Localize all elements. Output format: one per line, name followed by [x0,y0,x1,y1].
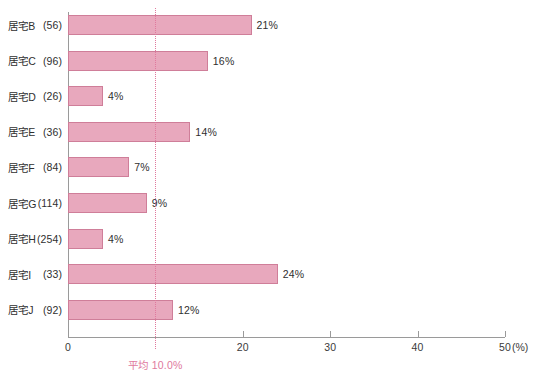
x-tick-mark [505,331,506,337]
bar-value-label: 9% [152,192,168,214]
bar-value-label: 4% [108,228,124,250]
bar-row: 居宅B(56)21% [0,14,543,36]
category-label: 居宅F(84) [8,156,62,178]
category-label: 居宅C(96) [8,50,62,72]
category-count: (26) [43,90,62,102]
category-name: 居宅C [8,53,36,68]
category-label: 居宅J(92) [8,299,62,321]
category-name: 居宅F [8,160,35,175]
x-tick-mark [68,331,69,337]
x-axis-unit-label: (%) [512,341,528,353]
category-count: (36) [43,126,62,138]
bar [68,86,103,106]
category-name: 居宅G [8,196,36,211]
category-label: 居宅G(114) [8,192,62,214]
x-tick-label: 40 [412,341,424,353]
bar-value-label: 7% [134,156,150,178]
category-label: 居宅B(56) [8,14,62,36]
x-tick-mark [243,331,244,337]
category-label: 居宅H(254) [8,228,62,250]
bar [68,264,278,284]
x-tick-label: 0 [65,341,71,353]
category-label: 居宅D(26) [8,85,62,107]
average-reference-line [155,8,156,349]
bar [68,229,103,249]
bar-row: 居宅F(84)7% [0,156,543,178]
plot-area: 020304050 (%) 居宅B(56)21%居宅C(96)16%居宅D(26… [0,0,543,375]
bar-row: 居宅I(33)24% [0,263,543,285]
category-count: (114) [38,197,62,209]
category-name: 居宅B [8,18,35,33]
category-count: (84) [43,161,62,173]
x-tick-label: 50 [499,341,511,353]
category-count: (254) [37,233,62,245]
bar-value-label: 24% [283,263,305,285]
x-tick-mark [330,331,331,337]
bar-value-label: 16% [213,50,235,72]
bar-row: 居宅C(96)16% [0,50,543,72]
bar-value-label: 14% [195,121,217,143]
bar-chart: 020304050 (%) 居宅B(56)21%居宅C(96)16%居宅D(26… [0,0,543,375]
category-label: 居宅E(36) [8,121,62,143]
category-label: 居宅I(33) [8,263,62,285]
bar [68,157,129,177]
bar [68,193,147,213]
category-count: (96) [43,55,62,67]
x-tick-label: 30 [324,341,336,353]
category-count: (56) [43,19,62,31]
x-tick-label: 20 [237,341,249,353]
bar [68,51,208,71]
category-name: 居宅H [8,231,36,246]
bar [68,300,173,320]
category-name: 居宅I [8,267,31,282]
category-name: 居宅D [8,89,36,104]
bar-row: 居宅G(114)9% [0,192,543,214]
category-name: 居宅J [8,302,34,317]
x-tick-mark [418,331,419,337]
category-count: (33) [43,268,62,280]
bar-value-label: 21% [257,14,279,36]
bar [68,15,252,35]
x-axis-line [68,337,505,338]
category-name: 居宅E [8,124,35,139]
category-count: (92) [43,304,62,316]
bar-value-label: 4% [108,85,124,107]
bar [68,122,190,142]
bar-row: 居宅J(92)12% [0,299,543,321]
bar-row: 居宅E(36)14% [0,121,543,143]
average-reference-label: 平均 10.0% [128,357,182,372]
bar-value-label: 12% [178,299,200,321]
bar-row: 居宅D(26)4% [0,85,543,107]
bar-row: 居宅H(254)4% [0,228,543,250]
